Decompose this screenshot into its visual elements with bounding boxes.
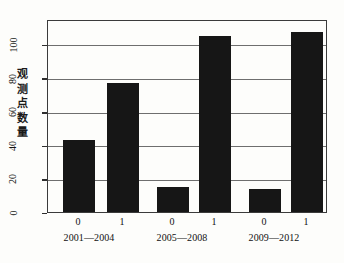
y-tick-label-100: 100 (0, 39, 26, 51)
bar-2005-2008-0 (157, 187, 189, 212)
gridline-100 (48, 45, 326, 46)
bar-2001-2004-1 (107, 83, 139, 212)
gridline-60 (48, 113, 326, 114)
y-axis-title-char: 量 (14, 126, 30, 141)
plot-area (47, 20, 327, 213)
x-group-label-2009-2012: 2009—2012 (231, 232, 317, 244)
x-tick-label-2009-2012-0: 0 (253, 216, 275, 228)
y-tick-label-20: 20 (0, 173, 26, 185)
x-tick-label-2001-2004-1: 1 (111, 216, 133, 228)
x-tick-label-2005-2008-1: 1 (203, 216, 225, 228)
bar-2005-2008-1 (199, 36, 231, 212)
y-tick-label-80: 80 (0, 73, 26, 85)
bar-2009-2012-1 (291, 32, 323, 212)
y-tick-label-60: 60 (0, 106, 26, 118)
x-group-label-2001-2004: 2001—2004 (46, 232, 132, 244)
x-group-label-2005-2008: 2005—2008 (139, 232, 225, 244)
bar-2001-2004-0 (63, 140, 95, 212)
bar-chart: 观 测 点 数 量 0 20 40 60 80 100 0 1 (0, 0, 344, 263)
x-tick-label-2009-2012-1: 1 (295, 216, 317, 228)
y-tick-label-40: 40 (0, 140, 26, 152)
x-tick-label-2001-2004-0: 0 (67, 216, 89, 228)
bar-2009-2012-0 (249, 189, 281, 213)
y-tick-label-0: 0 (0, 207, 26, 219)
x-tick-label-2005-2008-0: 0 (161, 216, 183, 228)
gridline-80 (48, 79, 326, 80)
